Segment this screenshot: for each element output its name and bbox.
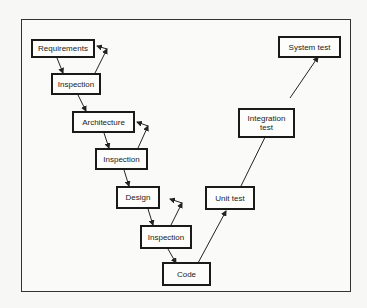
- node-requirements: Requirements: [31, 39, 95, 58]
- node-inspection-2: Inspection: [95, 148, 148, 170]
- node-unit-test: Unit test: [205, 186, 255, 210]
- node-integration-test: Integration test: [238, 108, 295, 138]
- node-design: Design: [116, 186, 160, 209]
- node-code: Code: [162, 262, 211, 286]
- node-inspection-3: Inspection: [140, 225, 192, 249]
- node-architecture: Architecture: [72, 111, 135, 133]
- node-inspection-1: Inspection: [51, 73, 101, 95]
- node-system-test: System test: [278, 36, 341, 58]
